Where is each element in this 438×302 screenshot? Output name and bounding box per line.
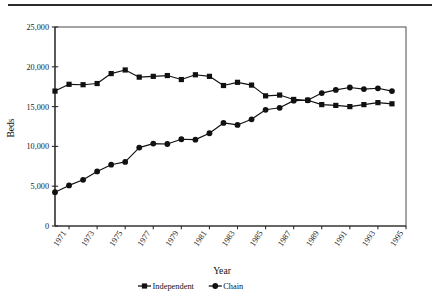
x-tick-label: 1995 [389, 229, 406, 248]
y-axis-title: Beds [5, 118, 16, 137]
data-point-marker [94, 169, 100, 175]
x-tick-label: 1989 [304, 229, 321, 248]
y-tick-label: 25,000 [26, 23, 49, 32]
data-point-marker [347, 104, 352, 109]
data-point-marker [389, 101, 394, 106]
data-point-marker [333, 103, 338, 108]
x-tick-label: 1971 [52, 229, 69, 248]
x-tick-label: 1977 [136, 229, 153, 248]
series-chain [52, 85, 395, 195]
x-axis-ticks: 1971197319751977197919811983198519871989… [52, 226, 406, 248]
figure-container: 05,00010,00015,00020,00025,000 197119731… [0, 0, 438, 302]
data-point-marker [361, 102, 366, 107]
data-point-marker [66, 82, 71, 87]
data-point-marker [361, 86, 367, 92]
legend-marker-square [142, 283, 147, 288]
x-tick-label: 1979 [164, 229, 181, 248]
y-tick-label: 20,000 [26, 63, 49, 72]
data-point-marker [80, 82, 85, 87]
data-point-marker [193, 72, 198, 77]
data-point-marker [319, 102, 324, 107]
data-point-marker [389, 88, 395, 94]
data-point-marker [249, 83, 254, 88]
y-axis-ticks: 05,00010,00015,00020,00025,000 [26, 23, 58, 231]
y-tick-label: 5,000 [31, 182, 49, 191]
data-point-marker [109, 71, 114, 76]
data-point-marker [137, 75, 142, 80]
data-point-marker [136, 145, 142, 151]
data-point-marker [235, 80, 240, 85]
data-point-marker [66, 183, 72, 189]
y-tick-label: 10,000 [26, 142, 49, 151]
data-point-marker [108, 162, 114, 168]
data-point-marker [80, 177, 86, 183]
x-tick-label: 1975 [108, 229, 125, 248]
data-point-marker [179, 77, 184, 82]
y-tick-label: 15,000 [26, 103, 49, 112]
data-point-marker [277, 105, 283, 111]
data-point-marker [52, 88, 57, 93]
x-tick-label: 1993 [360, 229, 377, 248]
data-series-group [52, 67, 395, 195]
data-point-marker [221, 120, 227, 126]
plot-frame [55, 27, 406, 226]
x-tick-label: 1987 [276, 229, 293, 248]
chart-legend: IndependentChain [138, 282, 244, 291]
data-point-marker [221, 83, 226, 88]
data-point-marker [178, 136, 184, 142]
y-tick-label: 0 [45, 222, 49, 231]
x-tick-label: 1973 [80, 229, 97, 248]
legend-label-chain: Chain [223, 282, 244, 291]
data-point-marker [263, 93, 268, 98]
data-point-marker [165, 73, 170, 78]
data-point-marker [193, 137, 199, 143]
legend-marker-circle [212, 283, 218, 289]
data-point-marker [263, 107, 269, 113]
data-point-marker [291, 98, 297, 104]
data-point-marker [151, 74, 156, 79]
data-point-marker [277, 92, 282, 97]
line-chart: 05,00010,00015,00020,00025,000 197119731… [0, 0, 438, 302]
data-point-marker [375, 85, 381, 91]
series-line [55, 70, 392, 107]
data-point-marker [375, 100, 380, 105]
chart-plot-area: 05,00010,00015,00020,00025,000 197119731… [0, 0, 438, 302]
data-point-marker [164, 141, 170, 147]
x-axis-title: Year [213, 265, 231, 276]
legend-label-independent: Independent [153, 282, 195, 291]
data-point-marker [95, 81, 100, 86]
x-tick-label: 1981 [192, 229, 209, 248]
x-tick-label: 1983 [220, 229, 237, 248]
data-point-marker [150, 141, 156, 147]
data-point-marker [305, 97, 311, 103]
data-point-marker [319, 90, 325, 96]
data-point-marker [123, 67, 128, 72]
data-point-marker [333, 87, 339, 93]
x-tick-label: 1985 [248, 229, 265, 248]
plot-border [55, 27, 406, 226]
data-point-marker [122, 159, 128, 165]
data-point-marker [235, 122, 241, 128]
x-tick-label: 1991 [332, 229, 349, 248]
data-point-marker [207, 130, 213, 136]
data-point-marker [52, 189, 58, 195]
series-line [55, 88, 392, 193]
data-point-marker [347, 85, 353, 91]
data-point-marker [207, 74, 212, 79]
data-point-marker [249, 116, 255, 122]
